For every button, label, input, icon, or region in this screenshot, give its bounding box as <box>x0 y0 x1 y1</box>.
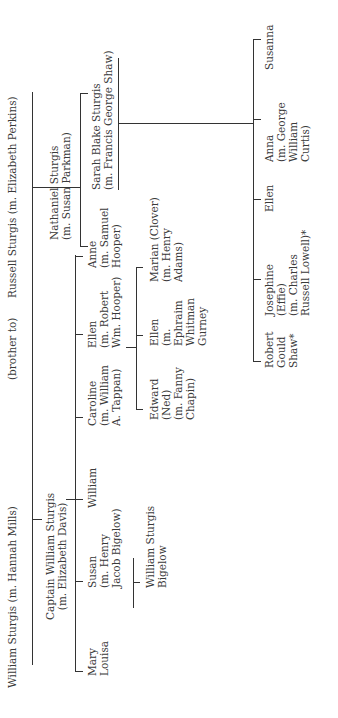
tick <box>136 267 143 268</box>
tick <box>75 256 83 257</box>
william-sturgis-bigelow-label: William Sturgis Bigelow <box>144 506 168 588</box>
william-sturgis-label: William Sturgis (m. Hannah Mills) <box>6 506 18 688</box>
ellen-gurney-label: Ellen (m. Ephraim Whitman Gurney <box>148 298 208 346</box>
russell-children-line <box>80 94 81 247</box>
sarah-label: Sarah Blake Sturgis (m. Francis George S… <box>90 50 114 190</box>
tick <box>253 361 261 362</box>
tick <box>75 499 83 500</box>
captain-children-line <box>75 255 76 672</box>
tick <box>253 199 261 200</box>
hooper-children-line <box>136 268 137 410</box>
caroline-label: Caroline (m. William A. Tappan) <box>86 365 122 426</box>
captain-william-label: Captain William Sturgis (m. Elizabeth Da… <box>44 493 68 620</box>
mary-louisa-label: Mary Louisa <box>86 641 110 676</box>
nathaniel-label: Nathaniel Sturgis (m. Susan Parkman) <box>48 132 72 240</box>
marian-label: Marian (Clover) (m. Henry Adams) <box>148 197 184 282</box>
tick <box>75 334 83 335</box>
family-tree-diagram: William Sturgis (m. Hannah Mills) (broth… <box>0 0 338 718</box>
tick <box>75 581 83 582</box>
tick <box>75 417 83 418</box>
sarah-underline <box>118 58 119 190</box>
bigelow-line <box>133 558 134 608</box>
anna-label: Anna (m. George William Curtis) <box>263 102 311 162</box>
generation1-line <box>32 92 33 665</box>
shaw-children-line <box>253 40 254 362</box>
captain-tick <box>66 499 75 500</box>
ellen-hooper-label: Ellen (m. Robert Wm. Hooper) <box>86 277 122 348</box>
william-tick <box>32 519 42 520</box>
shaw-connector <box>118 123 253 124</box>
tick <box>136 409 143 410</box>
tick <box>253 39 261 40</box>
robert-gould-shaw-label: Robert Gould Shaw* <box>263 332 299 368</box>
josephine-label: Josephine (Effie) (m. Charles Russell Lo… <box>263 230 311 316</box>
tick <box>136 335 143 336</box>
tick <box>253 279 261 280</box>
ellen-shaw-label: Ellen <box>263 185 275 212</box>
relation-label: (brother to) <box>6 318 18 380</box>
susanna-label: Susanna <box>263 25 275 70</box>
anne-label: Anne (m. Samuel Hooper) <box>86 208 122 268</box>
hooper-connector <box>126 347 136 348</box>
tick <box>133 582 140 583</box>
william-child-label: William <box>86 468 98 508</box>
tick <box>80 246 88 247</box>
russell-sturgis-label: Russell Sturgis (m. Elizabeth Perkins) <box>6 96 18 298</box>
susan-label: Susan (m. Henry Jacob Bigelow) <box>86 508 122 588</box>
tick <box>253 119 261 120</box>
tick <box>75 671 83 672</box>
edward-label: Edward (Ned) (m. Fanny Chapin) <box>148 367 196 420</box>
tick <box>80 93 88 94</box>
